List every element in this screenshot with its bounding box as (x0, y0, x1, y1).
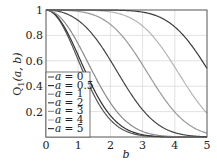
x-tick-label: 4 (171, 139, 178, 152)
x-tick-label: 0 (43, 139, 50, 152)
x-axis-label: b (122, 148, 129, 161)
y-tick-label: 0.2 (26, 106, 44, 119)
y-axis-label: Q1(a, b) (11, 52, 26, 95)
legend-entry: a = 5 (55, 122, 83, 134)
legend: a = 0a = 0.5a = 1a = 2a = 3a = 4a = 5 (46, 70, 93, 137)
svg-text:Q1(a, b): Q1(a, b) (11, 52, 26, 95)
y-tick-label: 0.6 (26, 55, 44, 68)
x-tick-label: 1 (75, 139, 82, 152)
x-tick-label: 5 (204, 139, 211, 152)
x-tick-label: 2 (107, 139, 114, 152)
marcum-q-chart: 012345 0.20.40.60.81 b Q1(a, b) a = 0a =… (0, 0, 217, 166)
y-tick-label: 0.4 (26, 80, 44, 93)
y-tick-label: 1 (36, 4, 43, 17)
y-tick-labels: 0.20.40.60.81 (26, 4, 44, 119)
x-tick-label: 3 (139, 139, 146, 152)
y-tick-label: 0.8 (26, 29, 44, 42)
